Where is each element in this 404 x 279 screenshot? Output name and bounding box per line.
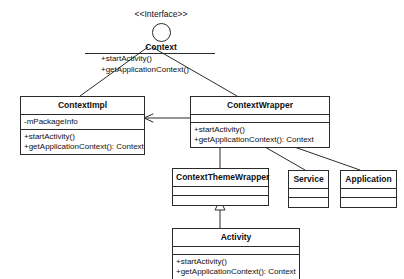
operations-compartment-contextwrapper: +startActivity() +getApplicationContext(… [191,123,329,147]
class-box-contextwrapper[interactable]: ContextWrapper +startActivity() +getAppl… [190,96,330,148]
class-name-activity: Activity [173,229,299,247]
operations-compartment-activity: +startActivity() +getApplicationContext(… [173,255,299,279]
class-box-service[interactable]: Service [288,170,329,208]
class-name-contextimpl: ContextImpl [21,97,144,115]
class-box-contextimpl[interactable]: ContextImpl -mPackageInfo +startActivity… [20,96,145,155]
attributes-compartment-contextwrapper [191,115,329,123]
class-name-application: Application [341,171,396,189]
uml-class-diagram: <<Interface>> Context +startActivity() +… [0,0,404,279]
interface-stereotype-label: <<Interface>> [85,10,237,19]
class-operation: +startActivity() [24,132,141,142]
operations-compartment-service [289,198,328,207]
class-operation: +startActivity() [194,125,326,135]
class-attribute: -mPackageInfo [24,117,141,127]
interface-name-label: Context [85,43,237,52]
class-operation: +getApplicationContext(): Context [194,135,326,145]
class-box-contextthemewrapper[interactable]: ContextThemeWrapper [172,168,269,206]
class-operation: +startActivity() [176,257,296,267]
attributes-compartment-application [341,189,396,198]
interface-context[interactable]: <<Interface>> Context +startActivity() +… [85,10,237,75]
operations-compartment-contextthemewrapper [173,196,268,205]
interface-operation: +startActivity() [101,54,237,65]
class-box-activity[interactable]: Activity +startActivity() +getApplicatio… [172,228,300,279]
interface-operations: +startActivity() +getApplicationContext(… [85,54,237,75]
interface-operation: +getApplicationContext() [101,65,237,76]
class-name-service: Service [289,171,328,189]
interface-lollipop-icon [152,23,171,42]
operations-compartment-application [341,198,396,207]
class-name-contextwrapper: ContextWrapper [191,97,329,115]
attributes-compartment-activity [173,247,299,255]
class-name-contextthemewrapper: ContextThemeWrapper [173,169,268,187]
attributes-compartment-contextthemewrapper [173,187,268,196]
operations-compartment-contextimpl: +startActivity() +getApplicationContext(… [21,130,144,154]
class-operation: +getApplicationContext(): Context [24,142,141,152]
attributes-compartment-service [289,189,328,198]
arrowhead-open-contextimpl [144,114,153,122]
attributes-compartment-contextimpl: -mPackageInfo [21,115,144,130]
class-operation: +getApplicationContext(): Context [176,267,296,277]
class-box-application[interactable]: Application [340,170,397,208]
